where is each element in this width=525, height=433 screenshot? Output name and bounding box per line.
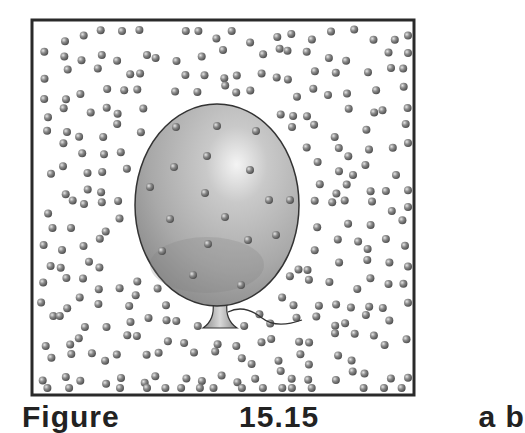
- gas-particle: [76, 293, 84, 301]
- gas-particle: [327, 28, 335, 36]
- gas-particle: [398, 216, 406, 224]
- gas-particle: [60, 104, 68, 112]
- gas-particle: [295, 338, 303, 346]
- gas-particle: [94, 300, 102, 308]
- gas-particle: [193, 88, 201, 96]
- gas-particle: [389, 144, 397, 152]
- gas-particle: [65, 384, 73, 392]
- gas-particle: [113, 57, 121, 65]
- gas-particle: [246, 87, 254, 95]
- gas-particle: [332, 190, 340, 198]
- gas-particle: [116, 215, 124, 223]
- gas-particle: [123, 165, 131, 173]
- gas-particle: [286, 196, 294, 204]
- gas-particle: [47, 262, 55, 270]
- gas-particle: [220, 74, 228, 82]
- gas-particle: [42, 342, 50, 350]
- gas-particle: [238, 384, 246, 392]
- gas-particle: [162, 301, 170, 309]
- gas-particle: [304, 266, 312, 274]
- gas-particle: [237, 281, 245, 289]
- gas-particle: [125, 302, 133, 310]
- gas-particle: [194, 322, 202, 330]
- gas-particle: [353, 285, 361, 293]
- gas-particle: [341, 197, 349, 205]
- gas-particle: [221, 213, 229, 221]
- gas-particle: [163, 316, 171, 324]
- gas-particle: [332, 69, 340, 77]
- gas-particle: [99, 133, 107, 141]
- gas-particle: [44, 209, 52, 217]
- gas-particle: [97, 188, 105, 196]
- gas-particle: [400, 83, 408, 91]
- gas-particle: [143, 351, 151, 359]
- gas-particle: [289, 112, 297, 120]
- gas-particle: [211, 348, 219, 356]
- gas-particle: [114, 110, 122, 118]
- gas-particle: [100, 150, 108, 158]
- gas-particle: [59, 139, 67, 147]
- gas-particle: [349, 367, 357, 375]
- gas-particle: [278, 384, 286, 392]
- gas-particle: [308, 384, 316, 392]
- gas-particle: [388, 207, 396, 215]
- gas-particle: [94, 64, 102, 72]
- gas-particle: [308, 36, 316, 44]
- gas-particle: [98, 198, 106, 206]
- gas-particle: [295, 265, 303, 273]
- gas-particle: [303, 143, 311, 151]
- gas-particle: [273, 73, 281, 81]
- gas-particle: [181, 71, 189, 79]
- gas-particle: [363, 256, 371, 264]
- gas-particle: [126, 70, 134, 78]
- gas-particle: [75, 334, 83, 342]
- gas-particle: [75, 133, 83, 141]
- gas-particle: [63, 128, 71, 136]
- gas-particle: [343, 181, 351, 189]
- gas-particle: [258, 69, 266, 77]
- gas-particle: [310, 121, 318, 129]
- gas-particle: [62, 95, 70, 103]
- gas-particle: [305, 361, 313, 369]
- gas-particle: [368, 198, 376, 206]
- gas-particle: [40, 95, 48, 103]
- gas-particle: [61, 37, 69, 45]
- caption-tail: a b: [478, 400, 524, 433]
- gas-particle: [273, 33, 281, 41]
- gas-particle: [127, 318, 135, 326]
- gas-particle: [335, 144, 343, 152]
- gas-particle: [404, 374, 412, 382]
- gas-particle: [385, 280, 393, 288]
- gas-particle: [113, 120, 121, 128]
- gas-particle: [392, 171, 400, 179]
- gas-particle: [102, 380, 110, 388]
- gas-particle: [259, 384, 267, 392]
- gas-particle: [324, 91, 332, 99]
- gas-particle: [332, 376, 340, 384]
- gas-particle: [233, 72, 241, 80]
- gas-particle: [151, 372, 159, 380]
- gas-particle: [69, 196, 77, 204]
- figure-caption: Figure 15.15 a b: [22, 402, 525, 432]
- gas-particle: [39, 377, 47, 385]
- gas-particle: [96, 235, 104, 243]
- gas-particle: [305, 339, 313, 347]
- gas-particle: [201, 189, 209, 197]
- gas-particle: [118, 27, 126, 35]
- gas-particle: [288, 123, 296, 131]
- gas-particle: [102, 228, 110, 236]
- gas-particle: [325, 54, 333, 62]
- gas-particle: [57, 264, 65, 272]
- gas-particle: [267, 335, 275, 343]
- gas-particle: [213, 122, 221, 130]
- gas-particle: [252, 127, 260, 135]
- gas-particle: [385, 259, 393, 267]
- gas-particle: [173, 57, 181, 65]
- gas-particle: [95, 285, 103, 293]
- gas-particle: [49, 224, 57, 232]
- gas-particle: [304, 376, 312, 384]
- caption-label: Figure: [22, 400, 120, 433]
- gas-particle: [37, 299, 45, 307]
- gas-particle: [349, 171, 357, 179]
- gas-particle: [85, 258, 93, 266]
